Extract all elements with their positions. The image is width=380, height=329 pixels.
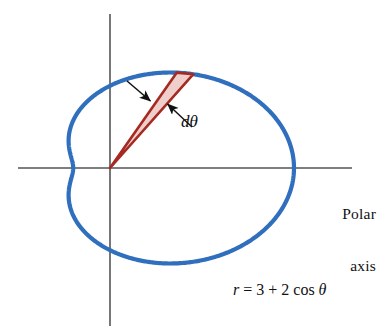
polar-axis-label: Polar axis (306, 170, 376, 292)
equation-body: = 3 + 2 cos (239, 281, 318, 298)
curve-equation-label: r = 3 + 2 cos θ (233, 281, 326, 299)
equation-variable-theta: θ (319, 281, 327, 298)
polar-axis-label-line1: Polar (306, 205, 376, 222)
d-theta-label: dθ (181, 112, 198, 131)
upper-leader-arrow-icon (127, 81, 151, 101)
polar-axis-label-line2: axis (306, 257, 376, 274)
